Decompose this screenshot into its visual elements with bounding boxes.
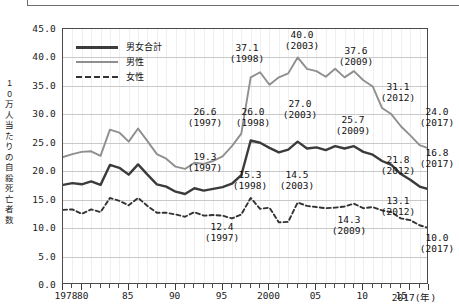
y-tick-label: 20.0 [32, 165, 56, 176]
x-tick [71, 284, 72, 288]
x-tick [334, 284, 335, 288]
y-axis-title-char: 数 [3, 215, 16, 226]
data-label: 37.1(1998) [230, 42, 264, 64]
x-tick [165, 284, 166, 288]
y-axis-title-char: 自 [3, 162, 16, 173]
data-label-year: (2017) [420, 158, 454, 169]
data-label-value: 37.1 [230, 42, 264, 53]
x-tick [325, 284, 326, 288]
y-axis-title-char: の [3, 152, 16, 163]
data-label-value: 12.4 [205, 221, 239, 232]
x-tick-label: 10 [357, 290, 368, 301]
data-label-year: (2012) [381, 92, 415, 103]
x-tick [203, 284, 204, 288]
legend-label: 男性 [126, 55, 144, 69]
data-label-year: (1997) [188, 117, 222, 128]
y-axis-title: 10万人当たりの自殺死亡者数 [3, 78, 16, 225]
data-label-year: (1998) [236, 117, 270, 128]
y-tick-label: 25.0 [32, 136, 56, 147]
x-tick-label: 85 [122, 290, 133, 301]
data-label-year: (2003) [280, 180, 314, 191]
x-tick [297, 284, 298, 288]
y-axis-title-char: 当 [3, 120, 16, 131]
data-label-year: (2017) [420, 117, 454, 128]
y-axis-title-char: 0 [3, 89, 16, 100]
x-tick-label: 1978 [55, 290, 78, 301]
x-tick [306, 284, 307, 288]
legend-label: 男女合計 [126, 40, 162, 54]
y-axis-title-char: 亡 [3, 194, 16, 205]
data-label-value: 14.3 [332, 214, 366, 225]
y-tick-label: 30.0 [32, 108, 56, 119]
data-label-value: 37.6 [339, 45, 373, 56]
data-label: 19.3(1997) [188, 151, 222, 173]
data-label-year: (2009) [339, 56, 373, 67]
y-tick-label: 40.0 [32, 51, 56, 62]
x-tick [390, 284, 391, 288]
x-tick [90, 284, 91, 288]
data-label-value: 27.0 [283, 98, 317, 109]
y-tick-label: 5.0 [38, 250, 56, 261]
y-tick-label: 0.0 [38, 279, 56, 290]
data-label-year: (2003) [285, 40, 319, 51]
x-tick [118, 284, 119, 288]
y-axis-title-char: 者 [3, 204, 16, 215]
series-line [63, 198, 428, 228]
suicide-mortality-line-chart: 10万人当たりの自殺死亡者数 0.05.010.015.020.025.030.… [0, 18, 459, 304]
x-tick [278, 284, 279, 288]
legend-swatch-icon [76, 46, 118, 49]
y-axis-title-char: 人 [3, 110, 16, 121]
x-tick [156, 284, 157, 288]
data-label-year: (1998) [230, 53, 264, 64]
data-label-value: 16.8 [420, 147, 454, 158]
y-axis-title-char: 殺 [3, 173, 16, 184]
data-label-value: 19.3 [188, 151, 222, 162]
data-label: 37.6(2009) [339, 45, 373, 67]
y-tick-label: 35.0 [32, 79, 56, 90]
data-label-value: 10.0 [420, 232, 454, 243]
cutoff-frame-top [27, 0, 459, 6]
data-label: 21.8(2012) [381, 154, 415, 176]
data-label: 24.0(2017) [420, 106, 454, 128]
x-tick [250, 284, 251, 288]
data-label: 27.0(2003) [283, 98, 317, 120]
legend-label: 女性 [126, 70, 144, 84]
data-label-value: 14.5 [280, 169, 314, 180]
x-tick-label: 95 [216, 290, 227, 301]
screenshot-root: 10万人当たりの自殺死亡者数 0.05.010.015.020.025.030.… [0, 0, 459, 304]
data-label-value: 25.7 [336, 114, 370, 125]
x-tick [353, 284, 354, 288]
x-tick [381, 284, 382, 288]
data-label: 26.6(1997) [188, 106, 222, 128]
legend-swatch-icon [76, 61, 118, 63]
data-label-year: (1998) [233, 180, 267, 191]
x-tick [259, 284, 260, 288]
y-axis-title-char: た [3, 131, 16, 142]
data-label: 12.4(1997) [205, 221, 239, 243]
x-tick-label: 2000 [257, 290, 280, 301]
y-tick-label: 15.0 [32, 193, 56, 204]
data-label-value: 26.6 [188, 106, 222, 117]
x-tick [400, 284, 401, 288]
data-label-year: (1997) [188, 162, 222, 173]
data-label: 26.0(1998) [236, 106, 270, 128]
data-label-year: (2003) [283, 109, 317, 120]
y-axis-title-char: り [3, 141, 16, 152]
data-label: 25.7(2009) [336, 114, 370, 136]
data-label-year: (2009) [336, 125, 370, 136]
x-tick [109, 284, 110, 288]
data-label: 14.3(2009) [332, 214, 366, 236]
y-axis: 10万人当たりの自殺死亡者数 0.05.010.015.020.025.030.… [0, 18, 62, 294]
x-tick [240, 284, 241, 288]
data-label: 16.8(2017) [420, 147, 454, 169]
data-label: 14.5(2003) [280, 169, 314, 191]
y-tick-label: 10.0 [32, 222, 56, 233]
x-tick [212, 284, 213, 288]
y-axis-title-char: 死 [3, 183, 16, 194]
data-label: 40.0(2003) [285, 29, 319, 51]
x-tick [419, 284, 420, 288]
x-tick [372, 284, 373, 288]
x-tick-label: 80 [77, 290, 88, 301]
x-tick [184, 284, 185, 288]
x-tick [231, 284, 232, 288]
